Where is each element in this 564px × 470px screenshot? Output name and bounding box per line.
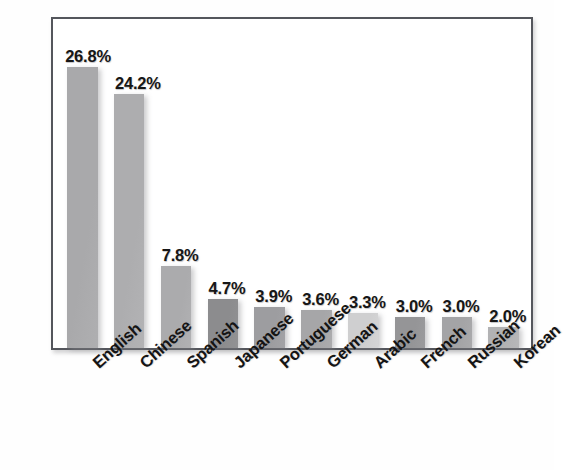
category-labels-layer: EnglishChineseSpanishJapanesePortugueseG… bbox=[0, 350, 554, 470]
bar-group bbox=[114, 94, 145, 348]
bar-value-label: 26.8% bbox=[65, 47, 111, 66]
bar-value-label: 4.7% bbox=[209, 279, 246, 298]
bar-group bbox=[67, 67, 98, 348]
bar-value-label: 3.0% bbox=[396, 297, 433, 316]
bar-value-label: 24.2% bbox=[115, 74, 161, 93]
bar-value-label: 7.8% bbox=[162, 246, 199, 265]
bar-value-label: 3.9% bbox=[255, 287, 292, 306]
bars-layer: 26.8%24.2%7.8%4.7%3.9%3.6%3.3%3.0%3.0%2.… bbox=[51, 17, 533, 350]
bar-value-label: 3.3% bbox=[349, 293, 386, 312]
bar[interactable] bbox=[67, 67, 98, 348]
bar[interactable] bbox=[114, 94, 145, 348]
bar-value-label: 3.0% bbox=[443, 297, 480, 316]
